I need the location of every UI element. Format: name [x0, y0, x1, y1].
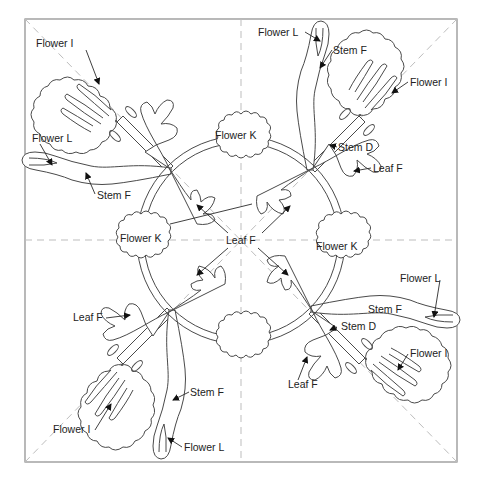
- motif-top-left: [22, 77, 177, 185]
- flower-k-bottom: [216, 311, 271, 358]
- label-flower-k-top: Flower K: [215, 129, 256, 141]
- label-stem-d-br: Stem D: [341, 320, 376, 332]
- label-flower-i-tr: Flower I: [410, 76, 447, 88]
- motif-bottom-left: [78, 304, 186, 459]
- label-leaf-f-tr: Leaf F: [373, 162, 403, 174]
- label-flower-k-right: Flower K: [316, 240, 357, 252]
- label-flower-l-tr: Flower L: [258, 26, 298, 38]
- label-leaf-f-br: Leaf F: [288, 378, 318, 390]
- label-flower-l-bl: Flower L: [184, 441, 224, 453]
- label-leaf-f-bl: Leaf F: [73, 311, 103, 323]
- label-stem-d-tr: Stem D: [338, 141, 373, 153]
- label-stem-f-tl: Stem F: [97, 189, 131, 201]
- label-stem-f-bl: Stem F: [190, 386, 224, 398]
- label-flower-i-tl: Flower I: [36, 37, 73, 49]
- label-flower-k-left: Flower K: [120, 232, 161, 244]
- label-stem-f-br: Stem F: [368, 303, 402, 315]
- label-leaf-f-center: Leaf F: [226, 234, 256, 246]
- label-flower-i-br: Flower I: [410, 347, 447, 359]
- label-stem-f-tr: Stem F: [333, 44, 367, 56]
- label-flower-l-tl: Flower L: [32, 132, 72, 144]
- label-flower-l-br: Flower L: [400, 272, 440, 284]
- label-flower-i-bl: Flower I: [53, 423, 90, 435]
- quilt-block-diagram: Flower I Flower L Stem F Flower L Stem F…: [0, 0, 482, 493]
